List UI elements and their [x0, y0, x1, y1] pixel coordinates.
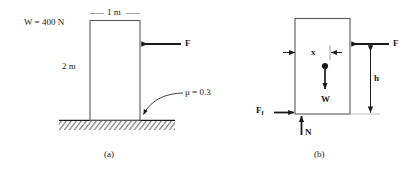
friction-label-b-sub: f [262, 109, 264, 116]
height-label-a: 2 m [62, 62, 76, 71]
normal-label-b: N [305, 128, 312, 137]
panel-b-caption: (b) [314, 150, 325, 159]
panel-b-graphics [274, 19, 389, 136]
friction-leader-line-a [144, 93, 184, 115]
panel-a-graphics [59, 14, 183, 131]
friction-coefficient-label-a: μ = 0.3 [185, 88, 211, 97]
weight-label-b: W [321, 95, 330, 104]
height-label-b: h [374, 74, 379, 83]
weight-vector-b [322, 63, 328, 89]
physics-figure: W = 400 N 1 m 2 m F μ = 0.3 (a) x F h W … [0, 0, 410, 176]
block-outline-a [90, 21, 140, 121]
ground-hatching [59, 120, 175, 130]
force-label-a: F [185, 39, 191, 48]
offset-label-b: x [311, 48, 316, 57]
friction-label-b: Ff [256, 106, 264, 117]
weight-label-a: W = 400 N [24, 18, 64, 27]
force-label-b: F [393, 39, 399, 48]
width-label-a: 1 m [107, 8, 121, 17]
panel-a-caption: (a) [104, 150, 114, 159]
